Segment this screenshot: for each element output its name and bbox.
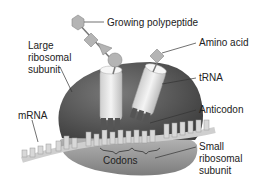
label-large-subunit-line1: Large bbox=[28, 40, 54, 51]
label-large-subunit-line3: subunit bbox=[28, 64, 60, 75]
amino-acid-shape bbox=[150, 49, 164, 63]
label-large-subunit-line2: ribosomal bbox=[28, 52, 71, 63]
label-small-subunit-line2: ribosomal bbox=[199, 153, 242, 164]
label-anticodon: Anticodon bbox=[199, 104, 243, 115]
label-growing-polypeptide: Growing polypeptide bbox=[107, 17, 198, 28]
label-amino-acid: Amino acid bbox=[199, 37, 248, 48]
label-trna: tRNA bbox=[199, 72, 223, 83]
label-mrna: mRNA bbox=[18, 110, 47, 121]
label-codons: Codons bbox=[103, 155, 137, 166]
label-small-subunit-line3: subunit bbox=[199, 165, 231, 176]
trna-left bbox=[100, 66, 122, 130]
label-small-subunit-line1: Small bbox=[199, 141, 224, 152]
